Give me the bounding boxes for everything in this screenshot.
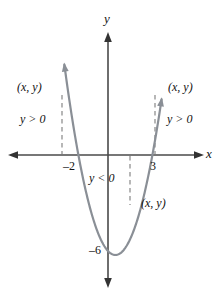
parabola-arrow-left [62, 63, 69, 72]
x-axis-arrow-left [8, 151, 18, 159]
x-axis [8, 151, 204, 159]
parabola-curve-accurate [62, 63, 164, 255]
y-tick-label-neg6: –6 [89, 244, 101, 256]
sign-label-right-positive: y > 0 [167, 113, 192, 125]
graph-figure: y x –2 3 –6 (x, y) (x, y) (x, y) y > 0 y… [0, 0, 223, 297]
sign-label-middle-negative: y < 0 [89, 172, 114, 184]
x-tick-label-neg2: –2 [63, 160, 75, 172]
x-axis-label: x [206, 147, 212, 160]
y-axis-arrow-up [104, 32, 112, 42]
point-label-right: (x, y) [168, 81, 193, 93]
y-axis-label: y [104, 12, 110, 25]
x-tick-label-3: 3 [150, 160, 156, 172]
x-axis-arrow-right [194, 151, 204, 159]
graph-canvas [0, 0, 223, 297]
point-label-left: (x, y) [17, 81, 42, 93]
parabola-accurate-path [64, 65, 161, 255]
parabola-arrow-right [157, 97, 164, 106]
sign-label-left-positive: y > 0 [20, 113, 45, 125]
point-label-bottom: (x, y) [141, 197, 166, 209]
y-axis-arrow-down [104, 278, 112, 288]
